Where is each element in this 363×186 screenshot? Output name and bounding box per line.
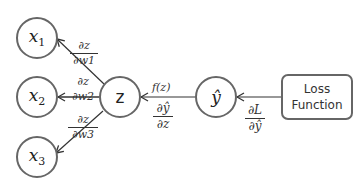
label-dz-dw2: ∂z∂w2 — [68, 76, 98, 103]
node-z-label: z — [116, 87, 125, 107]
node-yhat-label: ŷ — [211, 87, 221, 107]
label-fz: f(z) — [152, 81, 170, 94]
node-x3: x3 — [16, 136, 58, 178]
node-x2-label: x2 — [29, 85, 46, 108]
node-x1: x1 — [16, 17, 58, 59]
loss-line2: Function — [291, 97, 342, 113]
node-yhat: ŷ — [195, 76, 237, 118]
node-x2: x2 — [16, 76, 58, 118]
label-dL-dyhat: ∂L∂ŷ — [245, 104, 265, 133]
label-dz-dw1: ∂z∂w1 — [70, 40, 98, 67]
loss-line1: Loss — [304, 81, 330, 97]
loss-function-box: Loss Function — [281, 74, 353, 120]
node-z: z — [99, 76, 141, 118]
node-x1-label: x1 — [29, 26, 46, 49]
label-dz-dw3: ∂z∂w3 — [68, 114, 98, 141]
label-dyhat-dz: ∂ŷ∂z — [153, 102, 173, 131]
node-x3-label: x3 — [29, 145, 46, 168]
